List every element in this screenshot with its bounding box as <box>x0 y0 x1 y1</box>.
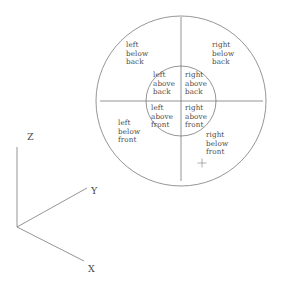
region-label-line: front <box>151 121 173 130</box>
spatial-region-diagram: leftbelowbackrightbelowbackleftaboveback… <box>0 0 290 288</box>
region-label-line: back <box>212 58 234 67</box>
region-label-right-below-back: rightbelowback <box>212 41 234 67</box>
axis-x-label: X <box>88 264 95 274</box>
axis-x-line <box>17 227 84 261</box>
plus-marker <box>198 159 207 168</box>
axis-y-line <box>17 188 87 227</box>
region-label-line: back <box>185 88 207 97</box>
region-label-line: back <box>153 88 175 97</box>
region-label-left-above-back: leftaboveback <box>153 71 175 97</box>
region-label-right-below-front: rightbelowfront <box>206 131 228 157</box>
region-label-left-below-front: leftbelowfront <box>118 119 140 145</box>
region-label-left-above-front: leftabovefront <box>151 104 173 130</box>
axis-triad <box>17 147 87 261</box>
axis-z-label: Z <box>27 132 34 142</box>
region-label-right-above-front: rightabovefront <box>185 104 207 130</box>
axis-y-label: Y <box>91 186 97 196</box>
region-label-left-below-back: leftbelowback <box>126 41 148 67</box>
region-label-line: back <box>126 58 148 67</box>
region-label-line: front <box>118 136 140 145</box>
region-label-line: front <box>206 148 228 157</box>
region-label-line: front <box>185 121 207 130</box>
region-label-right-above-back: rightaboveback <box>185 71 207 97</box>
